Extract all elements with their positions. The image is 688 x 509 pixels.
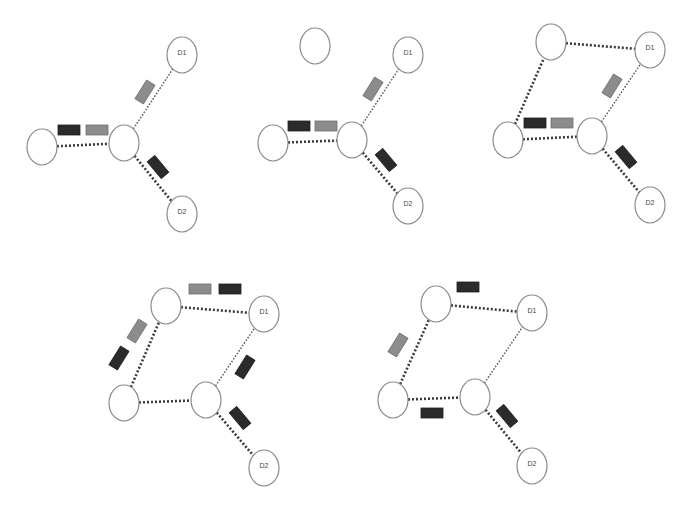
node-d2: D2	[517, 448, 547, 484]
packet-gray-icon	[127, 319, 147, 343]
node-circle	[337, 122, 367, 158]
node-label: D1	[646, 44, 655, 51]
packet-dark-icon	[524, 118, 546, 128]
router-node	[109, 125, 139, 161]
packet-dark-icon	[457, 282, 479, 292]
node-circle	[109, 125, 139, 161]
router-node	[577, 118, 607, 154]
router-node	[151, 288, 181, 324]
link-e-d1	[566, 43, 635, 49]
node-d2: D2	[635, 187, 665, 223]
node-label: D2	[260, 462, 269, 469]
diagram-panel-1: D1D2	[27, 37, 197, 232]
diagram-panel-5: D1D2	[378, 282, 547, 484]
router-node	[109, 385, 139, 421]
node-circle	[27, 129, 57, 165]
link-a-b	[57, 144, 109, 147]
router-node	[378, 382, 408, 418]
router-node	[300, 28, 330, 64]
packet-gray-icon	[135, 80, 155, 104]
packet-dark-icon	[375, 148, 397, 171]
diagram-canvas: D1D2D1D2D1D2D1D2D1D2	[0, 0, 688, 509]
node-circle	[493, 122, 523, 158]
node-circle	[460, 379, 490, 415]
router-node	[337, 122, 367, 158]
link-a-e	[515, 58, 544, 124]
link-a-b	[523, 137, 577, 140]
link-a-b	[288, 141, 337, 143]
packet-dark-icon	[109, 346, 129, 370]
network-diagram-figure: D1D2D1D2D1D2D1D2D1D2	[0, 0, 688, 509]
node-label: D2	[528, 460, 537, 467]
packet-dark-icon	[235, 355, 255, 379]
node-d1: D1	[167, 37, 197, 73]
packet-dark-icon	[421, 408, 443, 418]
packet-gray-icon	[189, 284, 211, 294]
link-b-d1	[484, 327, 522, 383]
router-node	[258, 125, 288, 161]
node-d2: D2	[249, 450, 279, 486]
node-circle	[421, 286, 451, 322]
node-label: D1	[404, 49, 413, 56]
node-d2: D2	[167, 196, 197, 232]
link-e-d1	[451, 305, 517, 311]
node-d1: D1	[517, 295, 547, 331]
node-circle	[109, 385, 139, 421]
node-circle	[300, 28, 330, 64]
packet-gray-icon	[363, 77, 383, 101]
router-node	[493, 122, 523, 158]
node-d1: D1	[635, 32, 665, 68]
node-d1: D1	[393, 37, 423, 73]
packet-dark-icon	[229, 406, 251, 429]
router-node	[27, 129, 57, 165]
node-circle	[378, 382, 408, 418]
packet-dark-icon	[496, 404, 518, 427]
packet-gray-icon	[551, 118, 573, 128]
link-a-e	[400, 320, 429, 384]
node-circle	[151, 288, 181, 324]
packet-gray-icon	[315, 121, 337, 131]
packet-gray-icon	[388, 333, 408, 357]
node-label: D2	[178, 208, 187, 215]
diagram-panel-2: D1D2	[258, 28, 423, 224]
node-label: D2	[646, 199, 655, 206]
packet-dark-icon	[615, 145, 637, 168]
router-node	[460, 379, 490, 415]
node-circle	[577, 118, 607, 154]
node-circle	[258, 125, 288, 161]
link-e-d1	[181, 307, 249, 313]
packet-dark-icon	[288, 121, 310, 131]
node-label: D2	[404, 200, 413, 207]
diagram-panel-4: D1D2	[109, 284, 279, 486]
router-node	[191, 382, 221, 418]
node-d2: D2	[393, 188, 423, 224]
packet-gray-icon	[86, 125, 108, 135]
node-d1: D1	[249, 296, 279, 332]
packet-dark-icon	[219, 284, 241, 294]
node-label: D1	[528, 307, 537, 314]
router-node	[536, 24, 566, 60]
packet-gray-icon	[602, 74, 622, 98]
node-label: D1	[260, 308, 269, 315]
diagram-panel-3: D1D2	[493, 24, 665, 223]
node-circle	[536, 24, 566, 60]
link-a-b	[139, 401, 191, 403]
link-a-b	[408, 398, 460, 400]
router-node	[421, 286, 451, 322]
node-circle	[191, 382, 221, 418]
node-label: D1	[178, 49, 187, 56]
packet-dark-icon	[58, 125, 80, 135]
